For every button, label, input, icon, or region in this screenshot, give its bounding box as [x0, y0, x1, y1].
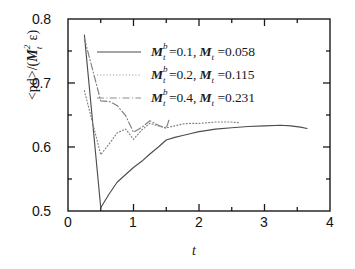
- ylabel-m-sub: t: [34, 47, 44, 50]
- legend: Mtb=0.1, Mt=0.058 Mtb=0.2, Mt=0.115 Mtb=…: [96, 40, 306, 109]
- ylabel-epsilon: ε: [25, 35, 40, 41]
- legend-2-mt-value: =0.231: [217, 90, 254, 105]
- legend-2-m-sup: b: [163, 87, 167, 97]
- legend-swatch-solid: [96, 46, 142, 58]
- ylabel-close-paren: ): [25, 30, 40, 35]
- legend-label-1: Mtb=0.2, Mt=0.115: [151, 67, 254, 83]
- legend-entry-1: Mtb=0.2, Mt=0.115: [96, 63, 306, 86]
- xtick-label-2: 2: [195, 214, 203, 230]
- legend-2-mt-symbol: M: [200, 90, 212, 105]
- legend-0-m-sub: t: [163, 52, 165, 62]
- legend-1-mb-value: =0.2,: [169, 67, 196, 82]
- y-axis-label: <pd>/(Mt2 ε): [20, 0, 46, 145]
- legend-0-mt-sub: t: [211, 52, 213, 62]
- legend-0-mt-symbol: M: [200, 44, 212, 59]
- legend-swatch-dashdot: [96, 92, 142, 104]
- xtick-label-0: 0: [64, 214, 72, 230]
- legend-2-mb-value: =0.4,: [169, 90, 196, 105]
- legend-entry-2: Mtb=0.4, Mt=0.231: [96, 86, 306, 109]
- legend-0-m-symbol: M: [151, 44, 163, 59]
- legend-1-mt-sub: t: [211, 75, 213, 85]
- xtick-label-1: 1: [129, 214, 137, 230]
- legend-1-mt-symbol: M: [200, 67, 212, 82]
- legend-2-m-sub: t: [163, 98, 165, 108]
- ylabel-m-symbol: Mt2: [25, 49, 41, 61]
- ytick-label-3: 0.5: [32, 203, 51, 219]
- xtick-label-3: 3: [260, 214, 268, 230]
- legend-label-2: Mtb=0.4, Mt=0.231: [151, 90, 255, 106]
- legend-0-mb-value: =0.1,: [169, 44, 196, 59]
- legend-1-mt-value: =0.115: [217, 67, 254, 82]
- legend-entry-0: Mtb=0.1, Mt=0.058: [96, 40, 306, 63]
- ylabel-slash: /(: [25, 62, 40, 71]
- legend-1-m-sup: b: [163, 64, 167, 74]
- legend-2-mt-sub: t: [211, 98, 213, 108]
- legend-2-m-symbol: M: [151, 90, 163, 105]
- legend-0-m-sup: b: [163, 41, 167, 51]
- x-axis-label: t: [192, 243, 196, 259]
- legend-label-0: Mtb=0.1, Mt=0.058: [151, 44, 255, 60]
- legend-1-m-sub: t: [163, 75, 165, 85]
- legend-swatch-dotted: [96, 69, 142, 81]
- legend-1-m-symbol: M: [151, 67, 163, 82]
- xtick-label-4: 4: [326, 214, 334, 230]
- legend-0-mt-value: =0.058: [217, 44, 254, 59]
- figure-root: 0.8 0.7 0.6 0.5 0 1 2 3 4 <pd>/(Mt2 ε) t…: [0, 0, 355, 269]
- ylabel-m-sup: 2: [22, 45, 32, 50]
- ylabel-numerator: <pd>: [25, 70, 40, 100]
